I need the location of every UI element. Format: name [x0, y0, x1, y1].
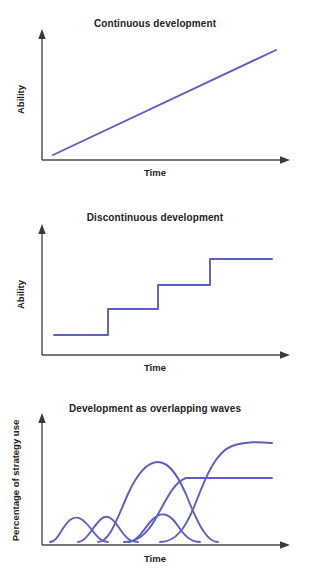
panel-overlapping-waves: Development as overlapping waves Percent…: [0, 390, 310, 582]
wave-strategy-6-plateau: [160, 442, 272, 542]
panel-discontinuous-development: Discontinuous development Ability Time: [0, 195, 310, 390]
x-axis-arrow-icon: [280, 351, 290, 358]
y-axis-arrow-icon: [38, 224, 45, 234]
wave-strategy-5-plateau: [124, 478, 272, 542]
panel-continuous-development: Continuous development Ability Time: [0, 0, 310, 195]
overlapping-waves-figure: Continuous development Ability Time Disc…: [0, 0, 310, 582]
x-axis-arrow-icon: [280, 541, 290, 548]
wave-strategy-3: [98, 462, 218, 542]
panel-continuous-plot: [0, 0, 310, 195]
y-axis-arrow-icon: [38, 29, 45, 39]
wave-strategy-2: [78, 517, 138, 542]
panel-discontinuous-plot: [0, 195, 310, 390]
y-axis-arrow-icon: [38, 413, 45, 423]
panel-waves-plot: [0, 390, 310, 582]
continuous-growth-line: [53, 50, 276, 155]
discontinuous-step-line: [54, 259, 272, 335]
x-axis-arrow-icon: [280, 156, 290, 163]
